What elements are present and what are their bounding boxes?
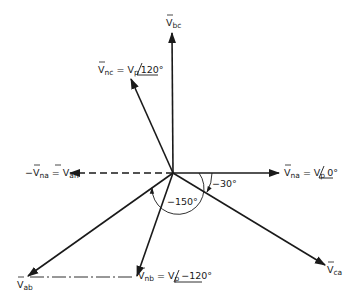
svg-text:−Vna = Van: −Vna = Van	[25, 167, 79, 180]
svg-text:Vca: Vca	[327, 264, 342, 277]
svg-text:Vab: Vab	[17, 279, 33, 292]
svg-text:Vnb = Vp−120°: Vnb = Vp−120°	[138, 270, 212, 283]
phasor-v-ca	[173, 173, 325, 265]
angle-label-minus-150: −150°	[167, 196, 198, 207]
phasor-v-nb	[137, 173, 173, 276]
label-v-an: −Vna = Van	[25, 165, 79, 180]
phasor-v-ab	[28, 173, 173, 276]
phasor-v-nc	[131, 79, 173, 173]
phasor-diagram: Vbc Vnc = Vp120° Vna = Vp0° −Vna = Van V…	[0, 0, 358, 300]
label-v-bc: Vbc	[166, 15, 181, 30]
label-v-nb: Vnb = Vp−120°	[138, 268, 212, 283]
label-v-ab: Vab	[17, 277, 33, 292]
angle-label-minus-30: −30°	[212, 178, 237, 189]
svg-text:Vbc: Vbc	[166, 17, 181, 30]
angle-arc-minus-150	[152, 173, 204, 214]
phasor-v-bc	[172, 33, 173, 173]
label-v-na: Vna = Vp0°	[284, 165, 338, 180]
label-v-ca: Vca	[327, 262, 342, 277]
label-v-nc: Vnc = Vp120°	[98, 62, 164, 77]
